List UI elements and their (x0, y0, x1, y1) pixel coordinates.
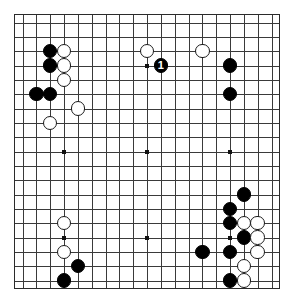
white-stone[interactable] (250, 230, 264, 244)
hoshi-point (62, 150, 66, 154)
hoshi-point (145, 236, 149, 240)
grid-line-vertical (272, 15, 273, 288)
black-stone[interactable] (223, 216, 237, 230)
last-move-stone[interactable]: 1 (154, 58, 168, 72)
grid-line-vertical (244, 15, 245, 288)
black-stone[interactable] (223, 58, 237, 72)
move-number-label: 1 (158, 60, 164, 71)
black-stone[interactable] (237, 230, 251, 244)
white-stone[interactable] (237, 259, 251, 273)
white-stone[interactable] (57, 73, 71, 87)
grid-line-horizontal (15, 209, 279, 210)
white-stone[interactable] (71, 101, 85, 115)
hoshi-point (62, 236, 66, 240)
white-stone[interactable] (250, 245, 264, 259)
grid-line-vertical (161, 15, 162, 288)
hoshi-point (145, 150, 149, 154)
black-stone[interactable] (223, 245, 237, 259)
white-stone[interactable] (57, 44, 71, 58)
hoshi-point (228, 150, 232, 154)
white-stone[interactable] (237, 273, 251, 287)
white-stone[interactable] (57, 216, 71, 230)
grid-line-horizontal (15, 252, 279, 253)
go-board-app: 1 (0, 0, 294, 303)
white-stone[interactable] (237, 216, 251, 230)
white-stone[interactable] (250, 216, 264, 230)
black-stone[interactable] (43, 58, 57, 72)
white-stone[interactable] (43, 116, 57, 130)
black-stone[interactable] (237, 187, 251, 201)
black-stone[interactable] (223, 273, 237, 287)
white-stone[interactable] (195, 44, 209, 58)
black-stone[interactable] (29, 87, 43, 101)
black-stone[interactable] (223, 87, 237, 101)
white-stone[interactable] (57, 245, 71, 259)
black-stone[interactable] (57, 273, 71, 287)
black-stone[interactable] (43, 44, 57, 58)
black-stone[interactable] (71, 259, 85, 273)
grid-line-vertical (175, 15, 176, 288)
grid-line-vertical (189, 15, 190, 288)
grid-line-vertical (216, 15, 217, 288)
black-stone[interactable] (195, 245, 209, 259)
hoshi-point (228, 236, 232, 240)
white-stone[interactable] (140, 44, 154, 58)
grid-line-horizontal (15, 180, 279, 181)
white-stone[interactable] (57, 58, 71, 72)
grid-line-horizontal (15, 166, 279, 167)
go-board[interactable]: 1 (14, 14, 280, 289)
black-stone[interactable] (223, 202, 237, 216)
black-stone[interactable] (43, 87, 57, 101)
hoshi-point (145, 64, 149, 68)
